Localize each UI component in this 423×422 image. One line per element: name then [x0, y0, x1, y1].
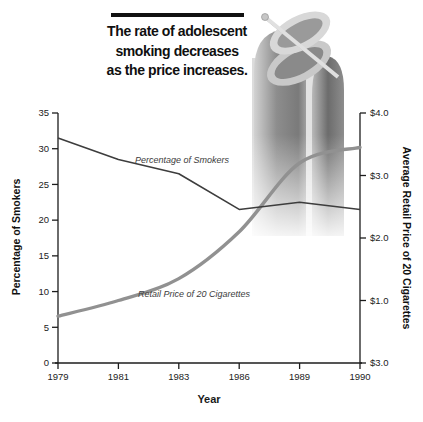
- figure-title-line-2: smoking decreases: [90, 42, 264, 62]
- y-left-tick-label: 35: [38, 107, 49, 118]
- x-tick-label: 1983: [168, 371, 189, 382]
- right-axis-title: Average Retail Price of 20 Cigarettes: [401, 138, 413, 338]
- title-rule: [111, 13, 244, 17]
- y-left-tick-label: 30: [38, 143, 49, 154]
- y-left-tick-label: 5: [44, 322, 49, 333]
- figure-title-block: The rate of adolescent smoking decreases…: [90, 13, 264, 81]
- x-tick-label: 1986: [229, 371, 250, 382]
- y-left-tick-label: 10: [38, 286, 49, 297]
- x-tick-label: 1989: [289, 371, 310, 382]
- smokers-line-label: Percentage of Smokers: [135, 155, 229, 165]
- y-left-tick-label: 20: [38, 214, 49, 225]
- price-line-label: Retail Price of 20 Cigarettes: [138, 289, 250, 299]
- x-axis-title: Year: [58, 393, 360, 405]
- figure-smoking-vs-price: 35302520151050$4.0$3.0$2.0$1.0$3.0197919…: [0, 0, 423, 422]
- x-tick-label: 1979: [47, 371, 68, 382]
- figure-title-line-3: as the price increases.: [90, 61, 264, 81]
- y-right-tick-label: $1.0: [370, 295, 389, 306]
- left-axis-title: Percentage of Smokers: [10, 157, 22, 317]
- y-right-tick-label: $4.0: [370, 107, 389, 118]
- y-right-tick-label: $3.0: [370, 170, 389, 181]
- y-left-tick-label: 0: [44, 357, 49, 368]
- y-left-tick-label: 25: [38, 179, 49, 190]
- y-right-tick-label: $2.0: [370, 232, 389, 243]
- y-right-tick-label: $3.0: [370, 357, 389, 368]
- y-left-tick-label: 15: [38, 250, 49, 261]
- figure-title-line-1: The rate of adolescent: [90, 22, 264, 42]
- x-tick-label: 1990: [349, 371, 370, 382]
- smokers-line: [58, 138, 360, 209]
- x-tick-label: 1981: [108, 371, 129, 382]
